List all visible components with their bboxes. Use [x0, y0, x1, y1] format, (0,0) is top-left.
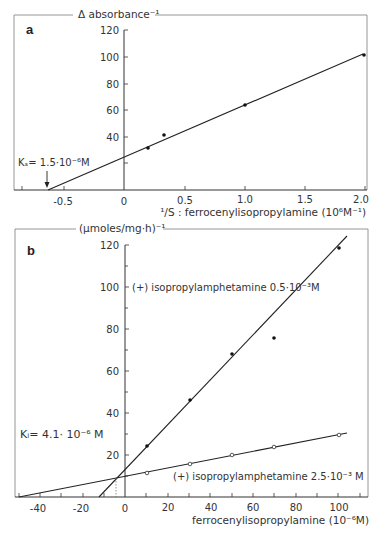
svg-text:80: 80 — [106, 79, 119, 90]
data-point — [362, 53, 366, 57]
svg-text:80: 80 — [106, 324, 119, 335]
data-point — [146, 146, 150, 150]
ki-annotation: Kᵢ= 4.1· 10⁻⁶ M — [20, 428, 104, 441]
series1-label: (+) isopropylamphetamine 0.5·10⁻³M — [132, 282, 320, 293]
data-point — [188, 398, 192, 402]
svg-text:60: 60 — [106, 105, 119, 116]
svg-text:100: 100 — [329, 502, 348, 513]
series2-fit-line — [19, 433, 347, 497]
panel-b-x-ticks: -40 -20 0 20 40 60 80 100 — [19, 493, 360, 514]
data-point — [230, 352, 234, 356]
data-point — [188, 462, 192, 466]
panel-b-y-axis-label: (μmoles/mg·h)⁻¹ — [79, 222, 166, 234]
svg-text:40: 40 — [106, 132, 119, 143]
panel-a-y-axis-label: Δ absorbance⁻¹ — [78, 8, 160, 20]
data-point — [272, 445, 276, 449]
panel-a-x-axis-label: ¹/S : ferrocenylisopropylamine (10⁶M⁻¹) — [160, 206, 366, 218]
data-point — [162, 133, 166, 137]
svg-text:20: 20 — [162, 502, 175, 513]
svg-text:20: 20 — [106, 450, 119, 461]
svg-text:1.5: 1.5 — [297, 194, 313, 205]
svg-text:0: 0 — [121, 196, 127, 207]
series1-fit-line — [99, 236, 347, 497]
panel-b-x-axis-label: ferrocenylisopropylamine (10⁻⁶M) — [192, 514, 369, 526]
panel-a: Δ absorbance⁻¹ a 120 100 80 60 40 — [14, 8, 369, 218]
panel-b: (μmoles/mg·h)⁻¹ b 120 100 80 60 40 20 — [15, 222, 369, 526]
data-point — [145, 471, 149, 475]
data-point — [337, 246, 341, 250]
svg-text:40: 40 — [106, 408, 119, 419]
panel-b-label: b — [27, 243, 35, 258]
ks-annotation: Kₛ= 1.5·10⁻⁶M — [18, 157, 90, 168]
data-point — [337, 433, 341, 437]
svg-text:60: 60 — [106, 366, 119, 377]
svg-text:100: 100 — [100, 282, 119, 293]
arrow-down-icon — [45, 171, 50, 188]
panel-a-frame-right — [155, 15, 367, 190]
svg-text:60: 60 — [247, 502, 260, 513]
svg-text:0: 0 — [122, 503, 128, 514]
panel-a-x-ticks: -0.5 0 0.5 1.0 1.5 2.0 — [22, 186, 369, 207]
data-point — [272, 336, 276, 340]
series2-label: (+) isopropylamphetamine 2.5·10⁻³ M — [173, 471, 364, 482]
svg-text:1.0: 1.0 — [237, 194, 253, 205]
figure: Δ absorbance⁻¹ a 120 100 80 60 40 — [0, 0, 385, 536]
svg-text:120: 120 — [100, 240, 119, 251]
panel-a-label: a — [26, 22, 34, 37]
svg-text:80: 80 — [290, 502, 303, 513]
data-point — [230, 453, 234, 457]
panel-b-frame-right — [163, 229, 368, 497]
panel-a-points — [146, 53, 366, 150]
svg-text:-0.5: -0.5 — [53, 196, 73, 207]
panel-a-fit-line — [48, 54, 363, 190]
svg-text:0.5: 0.5 — [177, 195, 193, 206]
data-point — [243, 103, 247, 107]
svg-text:-40: -40 — [30, 503, 46, 514]
svg-text:40: 40 — [205, 502, 218, 513]
svg-text:-20: -20 — [73, 503, 89, 514]
svg-text:120: 120 — [100, 25, 119, 36]
svg-text:100: 100 — [100, 52, 119, 63]
panel-b-frame-left — [15, 229, 76, 497]
data-point — [145, 444, 149, 448]
svg-text:2.0: 2.0 — [353, 194, 369, 205]
